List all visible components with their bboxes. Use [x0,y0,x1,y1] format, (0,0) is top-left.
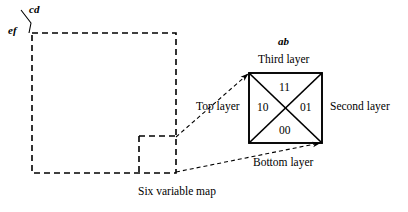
six-variable-map-figure: cd ef Six variable map ab Third layer To… [0,0,408,212]
layer-cell-01: 01 [300,102,312,114]
layer-label-second: Second layer [330,101,390,113]
layer-cell-10: 10 [257,102,269,114]
layer-label-bottom: Bottom layer [253,157,313,169]
map-axis-label-cd: cd [29,4,39,15]
layer-label-third: Third layer [258,54,309,66]
layer-cell-11: 11 [279,82,290,94]
figure-caption: Six variable map [138,186,216,198]
map-axis-label-ef: ef [8,25,17,36]
layer-label-top: Top layer [196,101,240,113]
six-variable-map-outer-rect [32,33,176,173]
layer-square-variable-label-ab: ab [278,36,289,47]
six-variable-map-inner-rect [139,136,176,173]
layer-cell-00: 00 [279,125,291,137]
